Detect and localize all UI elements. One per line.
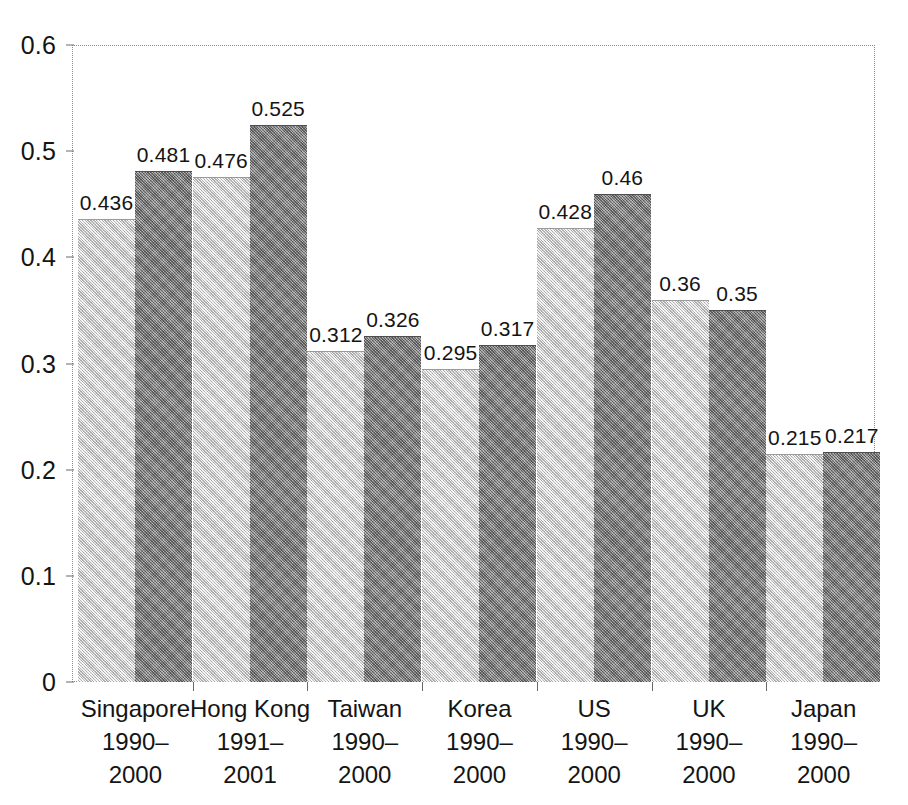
x-axis-category-label: Hong Kong1991–2001	[190, 692, 310, 791]
category-period-start: 1990–	[327, 725, 402, 758]
bar-value-label: 0.217	[825, 425, 879, 446]
bar	[193, 177, 250, 682]
category-period-end: 2000	[676, 758, 743, 791]
bar-chart: 00.10.20.30.40.50.6 0.4360.481Singapore1…	[0, 0, 908, 805]
category-name: Japan	[790, 692, 857, 725]
x-axis-tick-mark	[537, 682, 538, 691]
x-axis-tick-mark	[652, 682, 653, 691]
category-period-end: 2000	[81, 758, 190, 791]
bar-value-label: 0.428	[539, 201, 593, 222]
bar-value-label: 0.317	[481, 318, 535, 339]
category-period-end: 2001	[190, 758, 310, 791]
category-period-end: 2000	[446, 758, 513, 791]
category-name: Taiwan	[327, 692, 402, 725]
x-axis-tick-mark	[307, 682, 308, 691]
x-axis-category-label: UK1990–2000	[676, 692, 743, 791]
x-axis-tick-mark	[766, 682, 767, 691]
category-name: US	[561, 692, 628, 725]
bar-value-label: 0.476	[194, 150, 248, 171]
bar-value-label: 0.215	[768, 427, 822, 448]
bar-value-label: 0.436	[80, 192, 134, 213]
bar	[479, 345, 536, 682]
bar	[135, 171, 192, 682]
bar	[594, 194, 651, 682]
x-axis-category-label: Taiwan1990–2000	[327, 692, 402, 791]
category-period-end: 2000	[327, 758, 402, 791]
category-period-start: 1990–	[790, 725, 857, 758]
bar	[537, 228, 594, 682]
category-name: Hong Kong	[190, 692, 310, 725]
bar-value-label: 0.36	[659, 273, 701, 294]
category-period-end: 2000	[561, 758, 628, 791]
bar-value-label: 0.525	[251, 98, 305, 119]
bar	[250, 125, 307, 682]
category-name: UK	[676, 692, 743, 725]
x-axis-tick-mark	[193, 682, 194, 691]
bar	[364, 336, 421, 682]
bar-value-label: 0.312	[309, 324, 363, 345]
bar-value-label: 0.295	[424, 342, 478, 363]
bar-value-label: 0.35	[716, 283, 758, 304]
category-period-end: 2000	[790, 758, 857, 791]
x-axis-category-label: Japan1990–2000	[790, 692, 857, 791]
bar	[307, 351, 364, 682]
bar-value-label: 0.46	[602, 167, 644, 188]
category-period-start: 1990–	[81, 725, 190, 758]
bar	[823, 452, 880, 682]
x-axis-category-label: US1990–2000	[561, 692, 628, 791]
bar	[766, 454, 823, 682]
bar	[709, 310, 766, 682]
category-period-start: 1990–	[676, 725, 743, 758]
bar-value-label: 0.326	[366, 309, 420, 330]
x-axis-category-label: Singapore1990–2000	[81, 692, 190, 791]
bar-value-label: 0.481	[137, 144, 191, 165]
bar	[422, 369, 479, 682]
category-name: Korea	[446, 692, 513, 725]
x-axis-category-label: Korea1990–2000	[446, 692, 513, 791]
category-period-start: 1990–	[561, 725, 628, 758]
category-period-start: 1991–	[190, 725, 310, 758]
x-axis-tick-mark	[422, 682, 423, 691]
bars-layer: 0.4360.481Singapore1990–20000.4760.525Ho…	[0, 0, 908, 805]
category-period-start: 1990–	[446, 725, 513, 758]
category-name: Singapore	[81, 692, 190, 725]
bar	[78, 219, 135, 682]
bar	[652, 300, 709, 682]
